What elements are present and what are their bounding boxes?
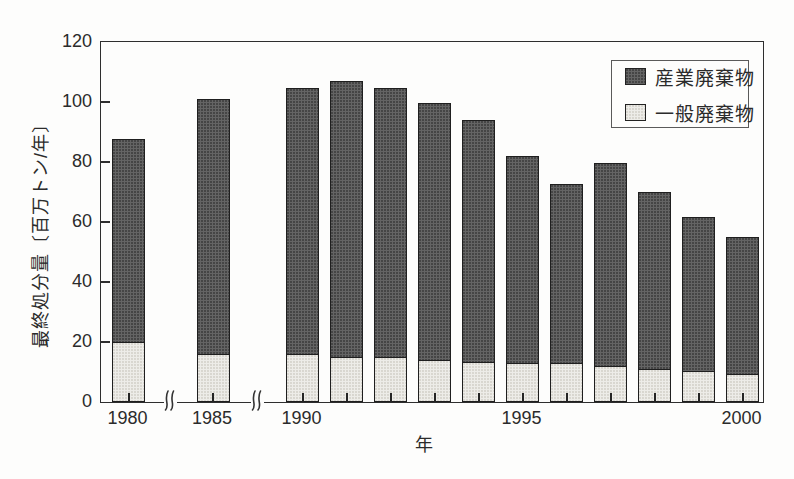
x-tick-1998 <box>654 393 656 402</box>
bar-industrial-1993 <box>418 103 451 361</box>
legend-label-general: 一般廃棄物 <box>655 99 755 126</box>
axis-break-mark-1 <box>250 390 266 411</box>
legend: 産業廃棄物 一般廃棄物 <box>611 60 749 128</box>
bar-industrial-1985 <box>197 99 230 356</box>
x-axis-title: 年 <box>404 430 444 456</box>
y-tick-40 <box>101 281 110 283</box>
bar-industrial-1999 <box>682 217 715 372</box>
x-tick-1999 <box>698 393 700 402</box>
legend-item-industrial: 産業廃棄物 <box>625 63 748 90</box>
bar-industrial-1996 <box>550 184 583 364</box>
bar-industrial-1998 <box>638 192 671 371</box>
x-tick-1992 <box>390 393 392 402</box>
x-tick-label-1985: 1985 <box>182 407 242 429</box>
y-tick-label-40: 40 <box>38 270 92 292</box>
bar-industrial-1980 <box>112 139 145 343</box>
y-tick-label-20: 20 <box>38 330 92 352</box>
axis-break-mark-0 <box>163 390 179 411</box>
x-tick-1996 <box>566 393 568 402</box>
x-tick-1980 <box>128 393 130 402</box>
legend-item-general: 一般廃棄物 <box>625 99 748 126</box>
bar-industrial-1991 <box>330 81 363 359</box>
x-tick-1991 <box>346 393 348 402</box>
x-tick-1985 <box>212 393 214 402</box>
x-tick-label-1995: 1995 <box>492 407 552 429</box>
general-waste-swatch <box>625 104 646 121</box>
x-tick-label-1990: 1990 <box>272 407 332 429</box>
x-tick-1993 <box>434 393 436 402</box>
legend-label-industrial: 産業廃棄物 <box>655 63 755 90</box>
x-tick-1990 <box>302 393 304 402</box>
x-tick-2000 <box>742 393 744 402</box>
bar-industrial-1992 <box>374 88 407 358</box>
plot-area: 産業廃棄物 一般廃棄物 <box>100 41 764 403</box>
y-tick-100 <box>101 101 110 103</box>
y-tick-80 <box>101 161 110 163</box>
waste-disposal-chart: 最終処分量〔百万トン/年〕 産業廃棄物 一般廃棄物 02040608010012… <box>0 0 794 479</box>
x-tick-1994 <box>478 393 480 402</box>
y-tick-label-80: 80 <box>38 150 92 172</box>
y-tick-label-100: 100 <box>38 90 92 112</box>
x-tick-label-2000: 2000 <box>712 407 772 429</box>
y-tick-label-0: 0 <box>38 390 92 412</box>
y-tick-label-120: 120 <box>38 30 92 52</box>
bar-industrial-1994 <box>462 120 495 363</box>
bar-industrial-2000 <box>726 237 759 375</box>
y-tick-label-60: 60 <box>38 210 92 232</box>
bar-industrial-1990 <box>286 88 319 355</box>
y-tick-20 <box>101 341 110 343</box>
x-tick-1997 <box>610 393 612 402</box>
bar-industrial-1995 <box>506 156 539 365</box>
x-tick-1995 <box>522 393 524 402</box>
y-tick-60 <box>101 221 110 223</box>
industrial-waste-swatch <box>625 68 646 85</box>
bar-industrial-1997 <box>594 163 627 367</box>
x-tick-label-1980: 1980 <box>98 407 158 429</box>
